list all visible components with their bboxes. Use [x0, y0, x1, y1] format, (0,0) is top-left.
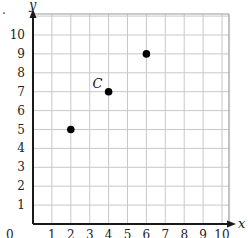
grid-lines [33, 14, 229, 224]
coordinate-plane: 01234567891012345678910 C . y x [0, 0, 248, 238]
x-tick-label: 8 [180, 228, 188, 238]
point-label: C [93, 76, 103, 91]
x-tick-label: 1 [48, 228, 56, 238]
y-tick-label: 10 [10, 28, 25, 42]
x-tick-label: 10 [214, 228, 229, 238]
y-axis-label: y [28, 0, 37, 12]
tick-labels: 01234567891012345678910 [6, 28, 230, 238]
x-axis-label: x [238, 216, 246, 231]
y-tick-label: 7 [17, 85, 25, 99]
axes [30, 9, 237, 228]
x-tick-label: 5 [124, 228, 132, 238]
x-tick-label: 3 [86, 228, 94, 238]
x-tick-label: 9 [199, 228, 207, 238]
y-tick-label: 9 [17, 47, 25, 61]
x-tick-label: 2 [67, 228, 75, 238]
y-tick-label: 5 [17, 123, 25, 137]
y-tick-label: 1 [17, 198, 25, 212]
x-tick-label: 0 [6, 228, 14, 238]
data-point [143, 50, 151, 58]
x-axis-arrow-icon [227, 221, 236, 228]
data-point [67, 126, 75, 134]
y-tick-label: 8 [17, 66, 25, 80]
y-tick-label: 3 [17, 160, 25, 174]
prefix-mark: . [2, 3, 6, 17]
x-tick-label: 7 [161, 228, 169, 238]
point-c [105, 88, 113, 96]
x-tick-label: 6 [143, 228, 151, 238]
y-tick-label: 6 [17, 104, 25, 118]
y-tick-label: 2 [17, 179, 25, 193]
y-tick-label: 4 [17, 141, 25, 155]
x-tick-label: 4 [105, 228, 113, 238]
